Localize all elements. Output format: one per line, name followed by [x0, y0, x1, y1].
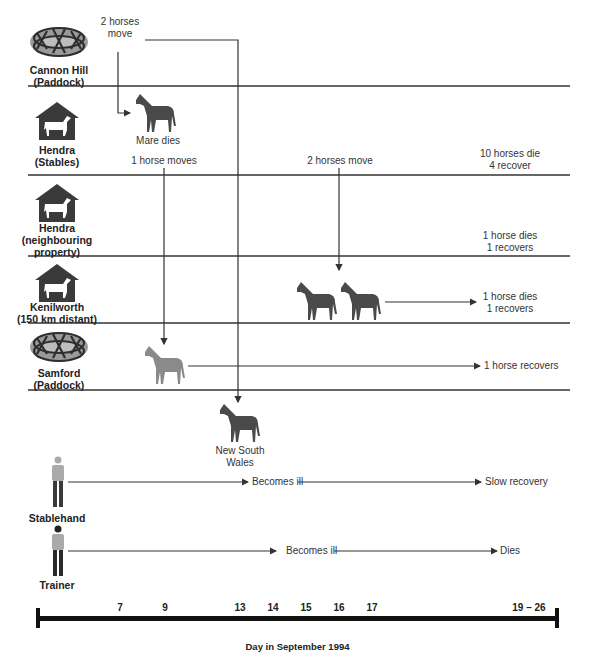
timeline-tick: 19 – 26	[499, 602, 559, 613]
label-line: (Paddock)	[14, 76, 104, 88]
label-line: (150 km distant)	[12, 313, 102, 325]
note-line: 1 recovers	[470, 242, 550, 254]
note-line: 1 horse dies	[470, 291, 550, 303]
two-horses-move-note: 2 horses move	[300, 155, 380, 167]
horse-icon	[338, 280, 384, 324]
paddock-icon	[29, 23, 89, 59]
horse-icon	[142, 344, 188, 388]
note-line: move	[90, 28, 150, 40]
stable-icon	[33, 182, 81, 222]
trainer-label: Trainer	[12, 579, 102, 591]
location-label-kenilworth: Kenilworth (150 km distant)	[12, 301, 102, 325]
label-line: (Stables)	[12, 156, 102, 168]
horse-icon	[133, 92, 179, 136]
note-line: Wales	[210, 457, 270, 469]
samford-outcome-note: 1 horse recovers	[484, 360, 574, 372]
label-line: Cannon Hill	[14, 64, 104, 76]
note-line: 2 horses	[90, 16, 150, 28]
hendra-outcome-note: 10 horses die 4 recover	[470, 148, 550, 172]
note-line: 4 recover	[470, 160, 550, 172]
horse-icon	[217, 402, 263, 446]
one-horse-moves-note: 1 horse moves	[124, 155, 204, 167]
note-line: New South	[210, 445, 270, 457]
trainer-outcome: Dies	[500, 545, 540, 557]
diagram-lines	[0, 0, 595, 666]
timeline-tick: 9	[145, 602, 185, 613]
label-line: (neighbouring	[12, 234, 102, 246]
location-label-hendra-stables: Hendra (Stables)	[12, 144, 102, 168]
note-line: 1 horse dies	[470, 230, 550, 242]
kenilworth-outcome-note: 1 horse dies 1 recovers	[470, 291, 550, 315]
cannon-move-note: 2 horses move	[90, 16, 150, 40]
stablehand-label: Stablehand	[12, 512, 102, 524]
label-line: Hendra	[12, 222, 102, 234]
label-line: (Paddock)	[14, 379, 104, 391]
neighbour-outcome-note: 1 horse dies 1 recovers	[470, 230, 550, 254]
paddock-icon	[29, 328, 89, 364]
nsw-note: New South Wales	[210, 445, 270, 469]
stablehand-person-icon	[49, 456, 67, 508]
label-line: Hendra	[12, 144, 102, 156]
stablehand-outcome: Slow recovery	[485, 476, 555, 488]
timeline-title: Day in September 1994	[0, 641, 595, 652]
note-line: 1 recovers	[470, 303, 550, 315]
label-line: property)	[12, 246, 102, 258]
note-line: 10 horses die	[470, 148, 550, 160]
label-line: Samford	[14, 367, 104, 379]
location-label-samford: Samford (Paddock)	[14, 367, 104, 391]
timeline-tick: 17	[352, 602, 392, 613]
stable-icon	[33, 262, 81, 302]
location-label-cannon-hill: Cannon Hill (Paddock)	[14, 64, 104, 88]
location-label-hendra-neighbouring: Hendra (neighbouring property)	[12, 222, 102, 258]
trainer-becomes-ill: Becomes ill	[286, 545, 332, 557]
mare-dies-note: Mare dies	[128, 135, 188, 147]
horse-icon	[294, 280, 340, 324]
label-line: Kenilworth	[12, 301, 102, 313]
stable-icon	[33, 100, 81, 140]
trainer-person-icon	[49, 525, 67, 577]
timeline-tick: 7	[100, 602, 140, 613]
stablehand-becomes-ill: Becomes ill	[252, 476, 298, 488]
